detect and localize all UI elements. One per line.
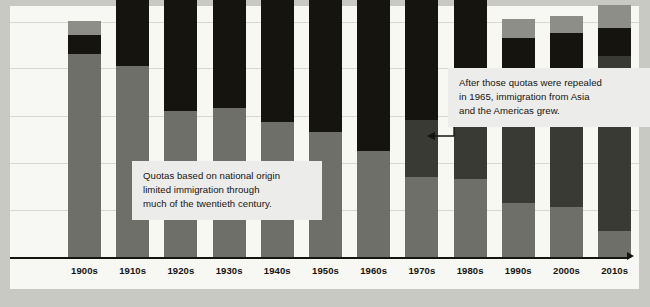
bar-segment-europe [213,0,246,108]
bar-segment-americas [68,54,101,257]
x-axis-line [10,257,629,259]
bar-segment-other [598,5,631,29]
annotation-line: and the Americas grew. [459,104,639,118]
bar-segment-americas [550,207,583,257]
bar-segment-other [550,16,583,33]
annotation-quotas: Quotas based on national originlimited i… [132,161,322,220]
chart-panel: 1900s1910s1920s1930s1940s1950s1960s1970s… [10,6,639,289]
x-tick-2010s: 2010s [587,265,643,276]
bar-2000s[interactable] [550,16,583,257]
bar-segment-other [68,21,101,35]
bar-segment-europe [116,0,149,66]
x-axis-arrow-icon [627,252,634,260]
annotation-line: After those quotas were repealed [459,76,639,90]
annotation-line: Quotas based on national origin [143,169,311,183]
bar-segment-americas [454,179,487,257]
bar-2010s[interactable] [598,5,631,257]
annotation-line: in 1965, immigration from Asia [459,90,639,104]
bar-1960s[interactable] [357,0,390,257]
annotation-repealed: After those quotas were repealedin 1965,… [448,68,650,127]
annotation-line: limited immigration through [143,183,311,197]
bar-segment-europe [598,28,631,56]
bar-segment-americas [357,151,390,257]
bar-segment-europe [68,35,101,54]
bar-segment-europe [357,0,390,151]
bar-1900s[interactable] [68,21,101,257]
bar-segment-europe [164,0,197,111]
bar-1980s[interactable] [454,0,487,257]
bar-segment-europe [261,0,294,122]
bar-segment-other [502,19,535,38]
plot-area: 1900s1910s1920s1930s1940s1950s1960s1970s… [10,6,639,289]
bar-1990s[interactable] [502,19,535,257]
bar-segment-europe [309,0,342,132]
bar-segment-americas [405,177,438,257]
annotation-line: much of the twentieth century. [143,197,311,211]
bar-segment-americas [502,203,535,257]
